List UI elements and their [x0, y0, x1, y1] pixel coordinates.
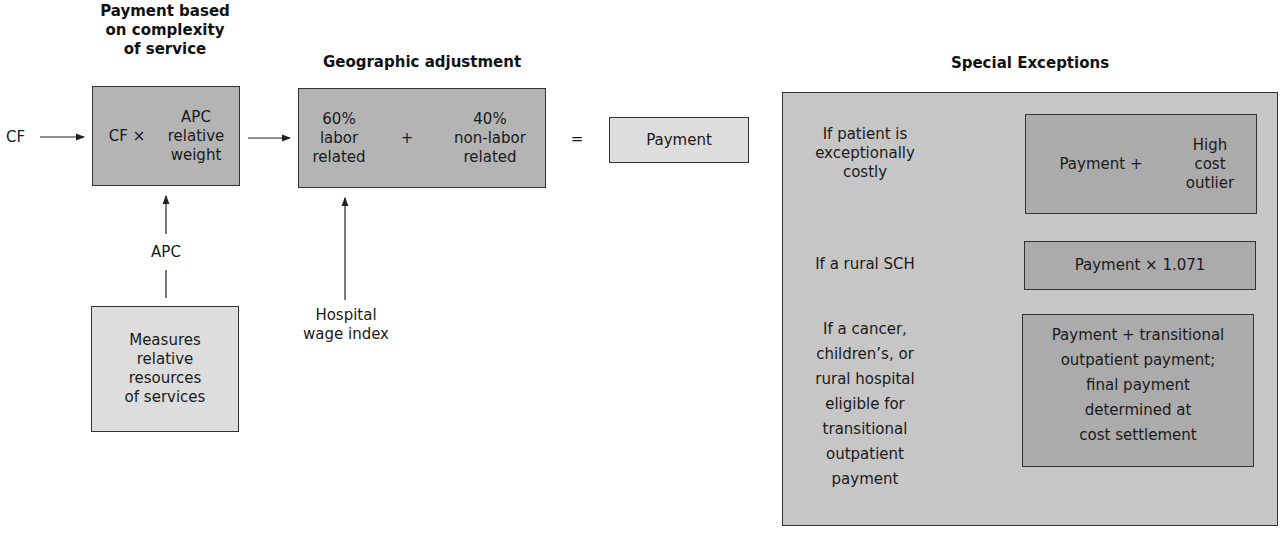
measures-box: Measures relative resources of services	[91, 306, 239, 432]
exception-3-result: Payment + transitional outpatient paymen…	[1022, 314, 1254, 467]
nonlabor-label: 40% non-labor related	[435, 89, 545, 187]
exception-3-result-label: Payment + transitional outpatient paymen…	[1023, 315, 1253, 466]
geographic-box: 60% labor related + 40% non-labor relate…	[298, 88, 546, 188]
wage-index-label: Hospital wage index	[300, 306, 392, 344]
exception-3-condition: If a cancer, children’s, or rural hospit…	[800, 317, 930, 492]
apc-weight-label: APC relative weight	[155, 87, 237, 185]
exception-1-result-right: High cost outlier	[1166, 115, 1254, 213]
complexity-box: CF × APC relative weight	[92, 86, 240, 186]
equals-sign: =	[567, 130, 587, 149]
cf-times-label: CF ×	[99, 87, 155, 185]
exception-2-result: Payment × 1.071	[1024, 241, 1256, 290]
exception-1-result-left: Payment +	[1036, 115, 1166, 213]
exception-2-result-label: Payment × 1.071	[1025, 242, 1255, 289]
labor-label: 60% labor related	[299, 89, 379, 187]
exception-2-condition: If a rural SCH	[795, 255, 935, 274]
cf-input-label: CF	[6, 128, 25, 147]
measures-label: Measures relative resources of services	[92, 307, 238, 431]
exception-1-condition: If patient is exceptionally costly	[800, 125, 930, 182]
apc-label: APC	[140, 243, 192, 262]
plus-sign: +	[379, 89, 435, 187]
payment-label: Payment	[610, 118, 748, 162]
payment-box: Payment	[609, 117, 749, 163]
exception-1-result: Payment + High cost outlier	[1025, 114, 1257, 214]
